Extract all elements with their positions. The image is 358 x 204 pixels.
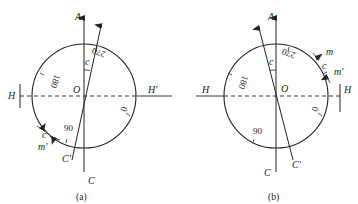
tick-180	[40, 73, 44, 75]
label-c: C	[88, 175, 95, 186]
label-angle-c: c	[85, 56, 90, 67]
caption-b: (b)	[268, 192, 279, 203]
label-a: A	[267, 11, 275, 22]
figure-a: A C C' H H' O c c m' 270 180 0 90 (a)	[7, 11, 172, 203]
label-o: O	[73, 84, 80, 95]
arc-mark-2	[323, 72, 327, 74]
label-h-left: H	[201, 84, 210, 95]
scale-0: 0	[118, 105, 129, 113]
label-m: m	[326, 46, 333, 57]
tick-90	[253, 139, 254, 143]
label-c-prime: C'	[292, 159, 302, 170]
label-arc-c: c	[322, 60, 327, 71]
scale-270: 270	[90, 45, 107, 59]
scale-180: 180	[48, 73, 62, 90]
diagram-canvas: A C C' H H' O c c m' 270 180 0 90 (a) A …	[0, 0, 358, 204]
tick-0	[126, 113, 130, 116]
label-a: A	[74, 11, 82, 22]
label-angle-c: c	[269, 56, 274, 67]
label-c: C	[264, 167, 271, 178]
scale-0: 0	[309, 105, 320, 113]
label-arc-c: c	[42, 129, 47, 140]
scale-90: 90	[253, 126, 263, 136]
scale-180: 180	[236, 74, 250, 91]
figure-b: A C C' H H O c c m m' 270 180 0 90 (b)	[196, 11, 352, 203]
arrow-m-prime	[327, 77, 330, 83]
label-h-prime: H'	[147, 84, 158, 95]
tick-0	[318, 113, 322, 116]
scale-270: 270	[280, 46, 297, 60]
arrow-m	[313, 53, 317, 58]
label-h: H	[7, 90, 16, 101]
scale-90: 90	[64, 123, 74, 133]
label-h-right: H	[343, 84, 352, 95]
angle-c-arc	[270, 70, 276, 71]
label-m-prime: m'	[334, 66, 344, 77]
label-o: O	[281, 83, 288, 94]
label-c-prime: C'	[62, 153, 72, 164]
label-m-prime: m'	[38, 141, 48, 152]
caption-a: (a)	[76, 192, 87, 203]
angle-c-arc	[84, 70, 90, 71]
tick-90	[66, 139, 67, 143]
